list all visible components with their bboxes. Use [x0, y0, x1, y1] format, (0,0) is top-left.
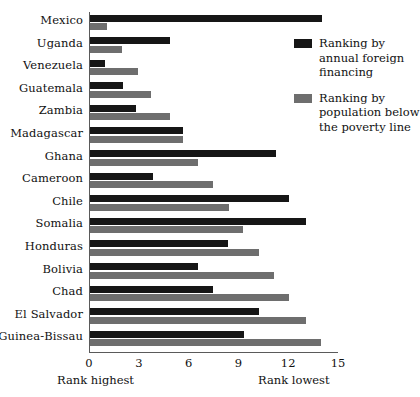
bar-row: Somalia: [0, 215, 420, 238]
bar-foreign-financing: [90, 82, 123, 89]
bar-pair: [90, 150, 276, 166]
bar-foreign-financing: [90, 308, 259, 315]
category-label-venezuela: Venezuela: [23, 59, 83, 72]
category-label-madagascar: Madagascar: [10, 127, 83, 140]
category-label-bolivia: Bolivia: [43, 263, 83, 276]
bar-chart: MexicoUgandaVenezuelaGuatemalaZambiaMada…: [0, 0, 420, 397]
bar-foreign-financing: [90, 60, 105, 67]
bar-pair: [90, 263, 274, 279]
x-tick-label-3: 3: [135, 356, 142, 370]
bar-poverty-line: [90, 136, 183, 143]
bar-pair: [90, 37, 170, 53]
bar-foreign-financing: [90, 195, 289, 202]
bar-poverty-line: [90, 294, 289, 301]
category-label-chad: Chad: [52, 285, 83, 298]
bar-foreign-financing: [90, 240, 228, 247]
category-label-guatemala: Guatemala: [19, 82, 83, 95]
legend-label-line-1: Ranking by: [319, 36, 385, 50]
bar-row: Cameroon: [0, 170, 420, 193]
bar-pair: [90, 105, 170, 121]
chart-legend: Ranking by annual foreign financing Rank…: [294, 36, 420, 145]
bar-poverty-line: [90, 23, 107, 30]
category-label-somalia: Somalia: [36, 217, 83, 230]
bar-poverty-line: [90, 46, 122, 53]
bar-pair: [90, 240, 259, 256]
category-label-mexico: Mexico: [40, 14, 83, 27]
x-axis-ticks: 03691215: [0, 356, 420, 372]
category-label-guinea-bissau: Guinea-Bissau: [0, 330, 83, 343]
legend-label-line-2: population below: [319, 105, 420, 119]
axis-caption-rank-lowest: Rank lowest: [258, 373, 330, 387]
bar-row: Chad: [0, 283, 420, 306]
bar-foreign-financing: [90, 127, 183, 134]
bar-foreign-financing: [90, 286, 213, 293]
bar-row: Ghana: [0, 148, 420, 171]
legend-entry-foreign-financing: Ranking by annual foreign financing: [294, 36, 420, 80]
bar-poverty-line: [90, 159, 198, 166]
category-label-cameroon: Cameroon: [22, 172, 83, 185]
bar-foreign-financing: [90, 263, 198, 270]
bar-foreign-financing: [90, 150, 276, 157]
bar-pair: [90, 127, 183, 143]
bar-pair: [90, 331, 321, 347]
bar-foreign-financing: [90, 173, 153, 180]
bar-row: Mexico: [0, 12, 420, 35]
category-label-chile: Chile: [52, 195, 83, 208]
bar-pair: [90, 218, 306, 234]
bar-pair: [90, 15, 322, 31]
bar-poverty-line: [90, 317, 306, 324]
bar-row: Honduras: [0, 238, 420, 261]
bar-foreign-financing: [90, 331, 244, 338]
bar-row: El Salvador: [0, 306, 420, 329]
bar-pair: [90, 60, 138, 76]
bar-row: Chile: [0, 193, 420, 216]
legend-label-line-3: the poverty line: [319, 120, 411, 134]
legend-label-line-3: financing: [319, 65, 373, 79]
bar-foreign-financing: [90, 37, 170, 44]
bar-foreign-financing: [90, 15, 322, 22]
bar-pair: [90, 82, 151, 98]
legend-entry-poverty-line: Ranking by population below the poverty …: [294, 91, 420, 135]
legend-label-poverty-line: Ranking by population below the poverty …: [319, 91, 420, 135]
x-tick-label-15: 15: [331, 356, 346, 370]
bar-poverty-line: [90, 339, 321, 346]
bar-poverty-line: [90, 91, 151, 98]
bar-poverty-line: [90, 204, 229, 211]
x-axis-line: [89, 352, 338, 353]
bar-poverty-line: [90, 226, 243, 233]
category-label-zambia: Zambia: [39, 104, 83, 117]
bar-pair: [90, 173, 213, 189]
x-tick-label-6: 6: [185, 356, 192, 370]
category-label-el-salvador: El Salvador: [15, 308, 83, 321]
bar-foreign-financing: [90, 218, 306, 225]
bar-poverty-line: [90, 272, 274, 279]
bar-row: Bolivia: [0, 261, 420, 284]
category-label-ghana: Ghana: [45, 150, 83, 163]
bar-pair: [90, 308, 306, 324]
x-tick-label-0: 0: [85, 356, 92, 370]
legend-label-line-1: Ranking by: [319, 91, 385, 105]
bar-foreign-financing: [90, 105, 136, 112]
legend-label-line-2: annual foreign: [319, 51, 404, 65]
category-label-uganda: Uganda: [37, 37, 83, 50]
bar-poverty-line: [90, 113, 170, 120]
legend-swatch-icon-dark: [294, 39, 312, 48]
bar-pair: [90, 286, 289, 302]
bar-row: Guinea-Bissau: [0, 328, 420, 351]
bar-poverty-line: [90, 181, 213, 188]
x-tick-label-9: 9: [235, 356, 242, 370]
bar-poverty-line: [90, 68, 138, 75]
bar-poverty-line: [90, 249, 259, 256]
bar-pair: [90, 195, 289, 211]
category-label-honduras: Honduras: [25, 240, 83, 253]
legend-swatch-icon-gray: [294, 94, 312, 103]
x-tick-label-12: 12: [281, 356, 296, 370]
axis-caption-rank-highest: Rank highest: [57, 373, 134, 387]
legend-label-foreign-financing: Ranking by annual foreign financing: [319, 36, 404, 80]
